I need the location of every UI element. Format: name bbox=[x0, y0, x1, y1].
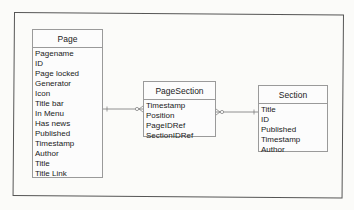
attribute: Author bbox=[261, 145, 327, 155]
attribute: Title bbox=[261, 105, 327, 115]
attribute: Icon bbox=[35, 89, 102, 99]
attribute-list: Title ID Published Timestamp Author bbox=[259, 104, 327, 157]
entity-title: Section bbox=[259, 86, 327, 104]
attribute: SectionIDRef bbox=[146, 131, 215, 141]
attribute: Published bbox=[261, 125, 327, 135]
attribute: Timestamp bbox=[35, 139, 102, 149]
attribute: Title bar bbox=[35, 99, 102, 109]
attribute: ID bbox=[261, 115, 327, 125]
relationship-pagesection-section bbox=[216, 109, 258, 115]
entity-title: PageSection bbox=[144, 82, 215, 100]
attribute: Position bbox=[146, 111, 215, 121]
attribute: Title Link bbox=[35, 169, 102, 179]
attribute: Timestamp bbox=[261, 135, 327, 145]
attribute: Author bbox=[35, 149, 102, 159]
entity-section: Section Title ID Published Timestamp Aut… bbox=[258, 85, 328, 152]
attribute: Generator bbox=[35, 79, 102, 89]
entity-title: Page bbox=[33, 30, 102, 48]
attribute-list: Timestamp Position PageIDRef SectionIDRe… bbox=[144, 100, 215, 143]
attribute: Published bbox=[35, 129, 102, 139]
entity-pagesection: PageSection Timestamp Position PageIDRef… bbox=[143, 81, 216, 137]
entity-page: Page Pagename ID Page locked Generator I… bbox=[32, 29, 103, 178]
attribute: Has news bbox=[35, 119, 102, 129]
attribute: Page locked bbox=[35, 69, 102, 79]
attribute: PageIDRef bbox=[146, 121, 215, 131]
attribute: ID bbox=[35, 59, 102, 69]
attribute: In Menu bbox=[35, 109, 102, 119]
attribute: Title bbox=[35, 159, 102, 169]
attribute-list: Pagename ID Page locked Generator Icon T… bbox=[33, 48, 102, 181]
attribute: Timestamp bbox=[146, 101, 215, 111]
relationship-page-pagesection bbox=[103, 106, 143, 112]
attribute: Pagename bbox=[35, 49, 102, 59]
